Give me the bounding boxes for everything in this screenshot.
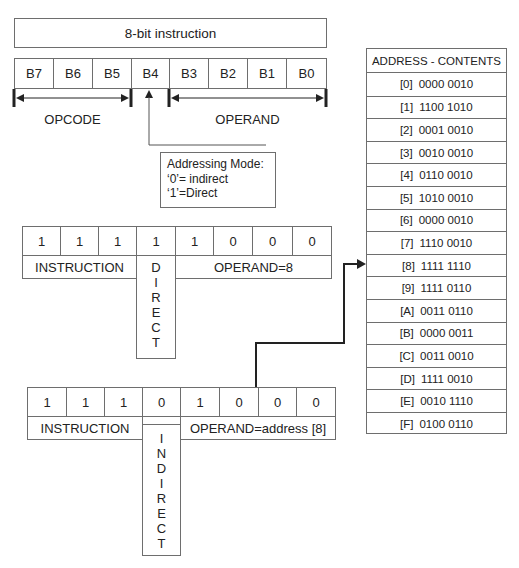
memory-contents: 1111 0110 — [420, 282, 471, 294]
bit-value: 1 — [43, 395, 50, 410]
indirect-bit-5: 1 — [104, 387, 143, 417]
memory-address: [0] — [400, 78, 413, 90]
mode-letter: I — [154, 275, 158, 290]
memory-address: [6] — [400, 214, 413, 226]
memory-address: [F] — [400, 418, 413, 430]
bit-value: 0 — [274, 395, 281, 410]
indirect-bit-3: 1 — [180, 387, 220, 417]
mode-letter: T — [158, 536, 166, 551]
memory-contents: 0010 0010 — [419, 147, 473, 159]
memory-row: [6]0000 0010 — [367, 209, 506, 232]
mode-letter: R — [151, 290, 160, 305]
addressing-mode-box: Addressing Mode: ‘0’= indirect ‘1’=Direc… — [160, 152, 276, 208]
memory-address: [B] — [400, 327, 414, 339]
memory-contents: 0000 0010 — [419, 214, 473, 226]
direct-bit-1: 0 — [252, 226, 293, 256]
memory-contents: 0000 0010 — [419, 78, 473, 90]
opcode-label: OPCODE — [14, 110, 131, 128]
memory-address: [2] — [400, 124, 413, 136]
direct-bit-7: 1 — [22, 226, 61, 256]
direct-instruction-label: INSTRUCTION — [22, 255, 137, 279]
memory-address: [3] — [400, 147, 413, 159]
indirect-to-memory-arrow — [256, 259, 366, 405]
memory-row: [1]1100 1010 — [367, 96, 506, 119]
bit-value: 1 — [114, 234, 121, 249]
memory-contents: 0011 0010 — [420, 350, 474, 362]
bit-value: 1 — [120, 395, 127, 410]
memory-contents: 0110 0010 — [419, 169, 473, 181]
bit-value: 0 — [235, 395, 242, 410]
memory-address: [5] — [400, 192, 413, 204]
memory-address: [E] — [400, 395, 414, 407]
operand-span-arrow — [169, 89, 326, 107]
memory-table-header: ADDRESS - CONTENTS — [367, 49, 506, 73]
memory-address: [7] — [401, 237, 414, 249]
label-text: INSTRUCTION — [35, 260, 124, 275]
indirect-bit-1: 0 — [258, 387, 297, 417]
header-text: ADDRESS - CONTENTS — [372, 55, 501, 67]
mode-letter: I — [160, 476, 164, 491]
indirect-operand-label: OPERAND=address [8] — [180, 416, 336, 440]
memory-row: [5]1010 0010 — [367, 186, 506, 209]
memory-address: [1] — [400, 101, 413, 113]
memory-row: [B]0000 0011 — [367, 322, 506, 345]
memory-row: [4]0110 0010 — [367, 163, 506, 186]
label-text: OPERAND=address [8] — [190, 421, 326, 436]
addressing-mode-title: Addressing Mode: — [167, 157, 275, 172]
memory-row: [7]1110 0010 — [367, 231, 506, 254]
memory-contents: 1111 0010 — [421, 373, 473, 385]
direct-bit-0: 0 — [292, 226, 332, 256]
memory-address: [C] — [399, 350, 414, 362]
operand-label: OPERAND — [169, 110, 326, 128]
memory-contents: 0011 0110 — [420, 305, 473, 317]
memory-contents: 1100 1010 — [419, 101, 473, 113]
memory-row: [D]1111 0010 — [367, 367, 506, 390]
memory-address: [8] — [402, 260, 415, 272]
memory-contents: 0100 0110 — [419, 418, 473, 430]
direct-bit-4: 1 — [136, 226, 176, 256]
memory-row: [0]0000 0010 — [367, 73, 506, 96]
memory-contents: 0000 0011 — [420, 327, 474, 339]
memory-row: [E]0010 1110 — [367, 389, 506, 412]
bit-value: 1 — [196, 395, 203, 410]
bit-value: 0 — [229, 234, 236, 249]
memory-row: [2]0001 0010 — [367, 118, 506, 141]
bit-value: 0 — [308, 234, 315, 249]
bit-value: 1 — [82, 395, 89, 410]
direct-bit-3: 1 — [175, 226, 214, 256]
memory-row: [9]1111 0110 — [367, 276, 506, 299]
bit-value: 1 — [152, 234, 159, 249]
indirect-bit-7: 1 — [27, 387, 67, 417]
bit-value: 1 — [191, 234, 198, 249]
memory-row: [8]1111 1110 — [367, 254, 506, 277]
mode-letter: E — [152, 305, 161, 320]
memory-contents: 0001 0010 — [419, 124, 473, 136]
memory-address: [A] — [400, 305, 414, 317]
memory-address: [9] — [402, 282, 415, 294]
label-text: INSTRUCTION — [41, 421, 130, 436]
addressing-mode-direct: ‘1’=Direct — [167, 186, 275, 201]
direct-bit-5: 1 — [98, 226, 137, 256]
memory-table: ADDRESS - CONTENTS [0]0000 0010[1]1100 1… — [366, 48, 507, 434]
memory-row: [C]0011 0010 — [367, 344, 506, 367]
indirect-bit-2: 0 — [219, 387, 259, 417]
indirect-bit-4: 0 — [142, 387, 181, 417]
memory-contents: 1111 1110 — [421, 260, 471, 272]
memory-address: [D] — [400, 373, 415, 385]
opcode-span-arrow — [14, 89, 131, 107]
memory-address: [4] — [400, 169, 413, 181]
indirect-bit-0: 0 — [296, 387, 336, 417]
direct-operand-label: OPERAND=8 — [175, 255, 332, 279]
bit-value: 0 — [269, 234, 276, 249]
mode-letter: I — [160, 431, 164, 446]
bit-value: 0 — [158, 395, 165, 410]
indirect-mode-column: I N D I R E C T — [142, 424, 181, 556]
indirect-instruction-label: INSTRUCTION — [27, 416, 143, 440]
label-text: OPERAND=8 — [214, 260, 293, 275]
mode-letter: D — [151, 260, 160, 275]
bit-value: 0 — [312, 395, 319, 410]
memory-contents: 1010 0010 — [419, 192, 473, 204]
mode-letter: T — [152, 335, 160, 350]
memory-contents: 1110 0010 — [420, 237, 473, 249]
bit-value: 1 — [38, 234, 45, 249]
